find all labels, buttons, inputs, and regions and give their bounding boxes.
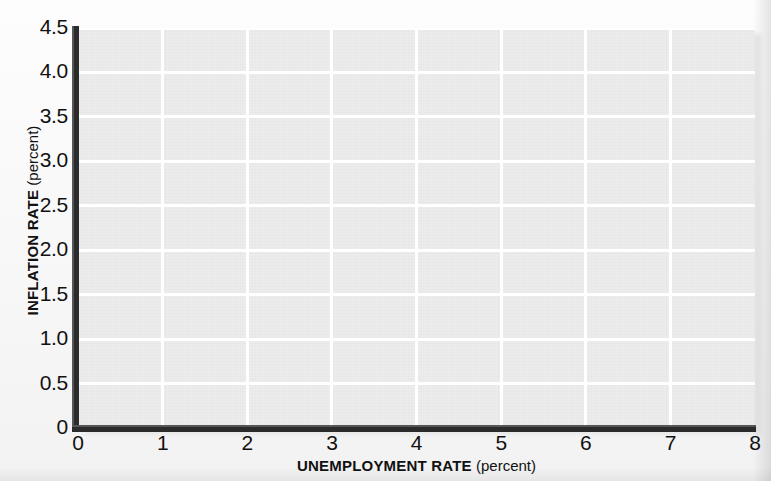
y-axis-title: INFLATION RATE (percent) [24,21,41,421]
x-tick-label: 1 [135,431,191,455]
x-tick-label: 8 [727,431,771,455]
x-axis-title-main: UNEMPLOYMENT RATE [297,457,472,474]
x-tick-label: 2 [219,431,275,455]
gridline-vertical [669,28,672,428]
y-axis-spine-highlight [72,26,74,432]
gridline-vertical [415,28,418,428]
y-axis-title-unit: (percent) [24,126,41,186]
gridline-vertical [500,28,503,428]
gridline-vertical [161,28,164,428]
plot-area [78,28,755,428]
x-axis-title-unit: (percent) [476,457,536,474]
x-tick-label: 4 [389,431,445,455]
x-tick-label: 7 [642,431,698,455]
gridline-vertical [584,28,587,428]
gridline-vertical [330,28,333,428]
x-tick-label: 6 [558,431,614,455]
x-tick-label: 3 [304,431,360,455]
x-tick-label: 5 [473,431,529,455]
chart-figure: 00.51.01.52.02.53.03.54.04.5 012345678 U… [0,0,771,481]
x-axis-title: UNEMPLOYMENT RATE (percent) [78,457,755,474]
x-tick-label: 0 [50,431,106,455]
y-axis-title-main: INFLATION RATE [24,190,41,316]
x-axis-spine-highlight [72,425,756,427]
gridline-vertical [246,28,249,428]
